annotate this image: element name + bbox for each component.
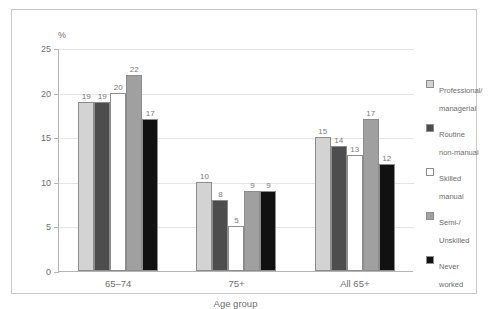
legend-swatch-icon — [426, 168, 434, 176]
bar-value-label: 9 — [266, 182, 270, 190]
bar-value-label: 10 — [200, 173, 209, 181]
legend-item[interactable]: Routine non-manual — [426, 123, 486, 159]
x-axis-title: Age group — [58, 298, 413, 309]
legend-item-label: Semi-/ Unskilled — [439, 218, 469, 245]
y-axis-tick-label: 10 — [41, 178, 51, 188]
bar-group: 191920221765–74 — [59, 49, 177, 271]
x-axis-group-label: 75+ — [177, 278, 295, 289]
bar-value-label: 22 — [130, 66, 139, 74]
bar: 8 — [212, 200, 228, 271]
legend-swatch-icon — [426, 80, 434, 88]
x-axis-group-label: All 65+ — [296, 278, 414, 289]
legend-swatch-icon — [426, 256, 434, 264]
bar: 19 — [94, 102, 110, 271]
legend-item-label: Skilled manual — [439, 174, 464, 201]
bar: 5 — [228, 226, 244, 271]
bar: 17 — [142, 119, 158, 271]
bar: 20 — [110, 93, 126, 271]
y-axis-unit-label: % — [58, 30, 66, 40]
bar-value-label: 19 — [98, 93, 107, 101]
bar-value-label: 17 — [366, 110, 375, 118]
bar-value-label: 9 — [250, 182, 254, 190]
y-axis-tick-label: 15 — [41, 133, 51, 143]
x-axis-group-label: 65–74 — [59, 278, 177, 289]
chart-legend: Professional/ managerialRoutine non-manu… — [426, 79, 486, 299]
y-axis-tick-label: 0 — [46, 267, 51, 277]
bar: 9 — [260, 191, 276, 271]
bar-value-label: 14 — [334, 137, 343, 145]
bar: 10 — [196, 182, 212, 271]
bar-value-label: 20 — [114, 84, 123, 92]
legend-item-label: Never worked — [439, 262, 463, 289]
bar: 13 — [347, 155, 363, 271]
bar-value-label: 17 — [146, 110, 155, 118]
bar-value-label: 15 — [318, 128, 327, 136]
legend-swatch-icon — [426, 124, 434, 132]
bar: 9 — [244, 191, 260, 271]
legend-item[interactable]: Professional/ managerial — [426, 79, 486, 115]
bar: 15 — [315, 137, 331, 271]
y-axis-tick — [54, 272, 59, 273]
bar-value-label: 12 — [382, 155, 391, 163]
plot-area: 0510152025191920221765–7410859975+151413… — [58, 49, 413, 272]
y-axis-tick-label: 20 — [41, 89, 51, 99]
bar-value-label: 5 — [234, 217, 238, 225]
legend-item-label: Professional/ managerial — [439, 86, 482, 113]
bar-value-label: 19 — [82, 93, 91, 101]
bar: 19 — [78, 102, 94, 271]
legend-item[interactable]: Skilled manual — [426, 167, 486, 203]
chart-frame: % 0510152025191920221765–7410859975+1514… — [11, 9, 477, 294]
bar-value-label: 13 — [350, 146, 359, 154]
y-axis-tick-label: 5 — [46, 222, 51, 232]
bar-group: 10859975+ — [177, 49, 295, 271]
bar: 14 — [331, 146, 347, 271]
bar: 22 — [126, 75, 142, 271]
legend-swatch-icon — [426, 212, 434, 220]
legend-item-label: Routine non-manual — [439, 130, 479, 157]
bar: 12 — [379, 164, 395, 271]
bar: 17 — [363, 119, 379, 271]
y-axis-tick-label: 25 — [41, 44, 51, 54]
bar-group: 1514131712All 65+ — [296, 49, 414, 271]
legend-item[interactable]: Semi-/ Unskilled — [426, 211, 486, 247]
bar-value-label: 8 — [218, 191, 222, 199]
legend-item[interactable]: Never worked — [426, 255, 486, 291]
